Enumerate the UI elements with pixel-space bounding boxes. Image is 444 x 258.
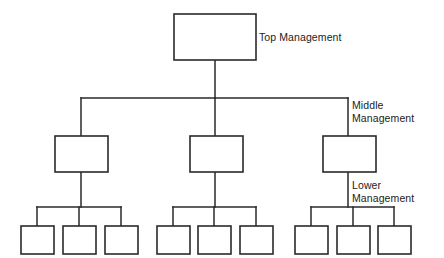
node-box-low-5[interactable] bbox=[198, 226, 231, 254]
node-box-low-7[interactable] bbox=[295, 226, 328, 254]
node-box-mid-1[interactable] bbox=[55, 136, 108, 172]
label-lower-management: Lower Management bbox=[352, 179, 414, 204]
node-box-low-1[interactable] bbox=[21, 226, 54, 254]
level-top-management bbox=[174, 14, 256, 60]
level-middle-management bbox=[55, 136, 376, 172]
node-box-top-1[interactable] bbox=[174, 14, 256, 60]
level-lower-management bbox=[21, 226, 411, 254]
node-box-mid-2[interactable] bbox=[190, 136, 243, 172]
node-box-low-4[interactable] bbox=[157, 226, 190, 254]
node-box-low-2[interactable] bbox=[63, 226, 96, 254]
node-box-low-6[interactable] bbox=[240, 226, 273, 254]
org-chart-canvas bbox=[0, 0, 444, 258]
node-box-mid-3[interactable] bbox=[323, 136, 376, 172]
node-box-low-3[interactable] bbox=[105, 226, 138, 254]
label-middle-management: Middle Management bbox=[352, 99, 414, 124]
org-chart-diagram: Top Management Middle Management Lower M… bbox=[0, 0, 444, 258]
node-box-low-9[interactable] bbox=[378, 226, 411, 254]
node-box-low-8[interactable] bbox=[337, 226, 370, 254]
label-top-management: Top Management bbox=[259, 31, 342, 44]
